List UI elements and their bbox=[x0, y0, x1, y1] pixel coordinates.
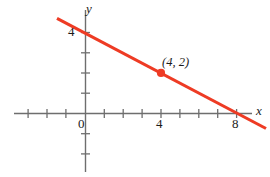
y-axis-label: y bbox=[86, 2, 92, 15]
x-tick-label-0: 0 bbox=[78, 117, 85, 130]
x-tick-label-4: 4 bbox=[156, 117, 163, 130]
point-annotation-label: (4, 2) bbox=[162, 56, 189, 69]
graph-figure: 0 4 8 4 x y (4, 2) bbox=[0, 0, 270, 177]
y-tick-label-4: 4 bbox=[68, 25, 75, 38]
x-tick-label-8: 8 bbox=[232, 117, 239, 130]
data-point-marker bbox=[157, 69, 165, 77]
coordinate-plane bbox=[0, 0, 270, 177]
x-axis-label: x bbox=[256, 104, 262, 117]
